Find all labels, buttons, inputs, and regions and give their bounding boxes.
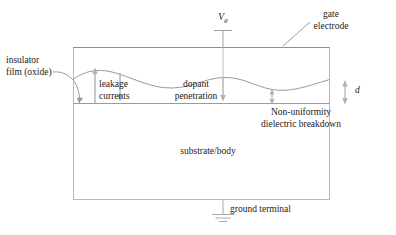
insulator-film-leader-arrow <box>77 98 83 104</box>
insulator-film-label: insulator film (oxide) <box>6 55 76 78</box>
ground-terminal-label: ground terminal <box>230 204 310 216</box>
leakage-currents-label-line2: currents <box>99 91 157 103</box>
dopant-penetration-label: dopant penetration <box>165 79 227 102</box>
thickness-label: d <box>355 85 371 97</box>
nonuniformity-label-line2: dielectric breakdown <box>246 119 356 131</box>
dopant-penetration-label-line1: dopant <box>165 79 227 91</box>
gate-voltage-subscript: g <box>224 16 228 24</box>
leakage-currents-label: leakage currents <box>99 79 157 102</box>
nonuniformity-label-line1: Non-uniformity <box>246 107 356 119</box>
thickness-arrow-head-down <box>342 98 347 105</box>
substrate-body-label: substrate/body <box>168 146 248 158</box>
figure-canvas: Vg gate electrode insulator film (oxide)… <box>0 0 396 235</box>
nonuniformity-label: Non-uniformity dielectric breakdown <box>246 107 356 130</box>
gate-electrode-label-line1: gate <box>300 9 362 21</box>
gate-voltage-label: Vg <box>208 12 238 27</box>
thickness-symbol: d <box>355 85 360 95</box>
leakage-currents-label-line1: leakage <box>99 79 157 91</box>
gate-electrode-label: gate electrode <box>300 9 362 32</box>
thickness-arrow-head-up <box>342 80 347 87</box>
gate-electrode-label-line2: electrode <box>300 21 362 33</box>
dopant-penetration-label-line2: penetration <box>165 91 227 103</box>
insulator-film-label-line1: insulator <box>6 55 76 67</box>
insulator-film-label-line2: film (oxide) <box>6 67 76 79</box>
